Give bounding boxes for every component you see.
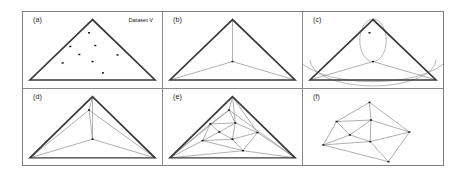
triangulation-edge-1: [370, 102, 371, 120]
vertex-0: [88, 32, 90, 33]
triangulation-edge-2: [89, 110, 155, 158]
vertex-5: [231, 138, 233, 139]
vertex-0: [368, 101, 370, 102]
vertex-3: [349, 134, 351, 135]
triangulation-edge-15: [233, 139, 243, 150]
panel-b-plot: [163, 12, 302, 88]
panel-a-plot: [23, 12, 162, 88]
panel-e: (e): [163, 89, 303, 166]
panel-f: (f): [303, 89, 443, 166]
vertex-4: [202, 139, 204, 140]
super-triangle: [170, 96, 295, 157]
triangulation-edge-5: [323, 121, 336, 144]
panel-grid: (a)Dataset V(b)(c)(d)(e)(f): [22, 11, 444, 166]
triangulation-edge-4: [210, 123, 219, 131]
triangulation-edge-11: [203, 139, 233, 140]
panel-f-plot: [303, 89, 443, 166]
vertex-0: [88, 109, 90, 110]
panel-e-plot: [163, 89, 302, 166]
panel-d-plot: [23, 89, 162, 166]
triangulation-edge-12: [203, 140, 243, 150]
triangulation-edge-3: [89, 110, 92, 139]
vertex-5: [369, 140, 371, 141]
super-triangle: [30, 20, 155, 80]
vertex-7: [102, 72, 104, 73]
vertex-5: [91, 61, 93, 62]
panel-d: (d): [23, 89, 163, 166]
triangulation-edge-7: [370, 120, 371, 142]
vertex-0: [368, 32, 370, 33]
panel-a: (a)Dataset V: [23, 12, 163, 89]
vertex-0: [231, 61, 233, 62]
triangulation-edge-14: [370, 141, 388, 161]
vertex-2: [234, 122, 236, 123]
vertex-1: [372, 61, 374, 62]
vertex-7: [387, 160, 389, 161]
triangulation-edge-9: [219, 132, 232, 139]
circumcircle-arc-2: [310, 60, 436, 86]
panel-b: (b): [163, 12, 303, 89]
triangulation-edge-4: [337, 121, 350, 134]
vertex-3: [218, 131, 220, 132]
vertex-2: [370, 119, 372, 120]
triangulation-edge-6: [350, 120, 371, 135]
triangulation-edge-0: [337, 102, 370, 121]
triangulation-edge-3: [337, 120, 371, 121]
figure-container: (a)Dataset V(b)(c)(d)(e)(f): [0, 0, 466, 177]
triangulation-edge-9: [350, 134, 370, 141]
triangulation-edge-19: [243, 150, 295, 157]
vertex-3: [78, 54, 80, 55]
vertex-1: [69, 46, 71, 47]
super-triangle: [310, 20, 436, 80]
triangulation-edge-14: [233, 132, 258, 139]
triangulation-edge-7: [233, 122, 236, 138]
vertex-1: [209, 123, 211, 124]
vertex-0: [228, 109, 230, 110]
vertex-1: [336, 120, 338, 121]
vertex-4: [62, 62, 64, 63]
triangulation-edge-2: [370, 102, 410, 132]
vertex-2: [94, 45, 96, 46]
vertex-4: [322, 144, 324, 145]
triangulation-edge-10: [203, 132, 220, 141]
vertex-1: [91, 138, 93, 139]
vertex-6: [408, 131, 410, 132]
triangulation-edge-21: [170, 110, 229, 158]
vertex-6: [116, 54, 118, 55]
triangulation-edge-22: [229, 110, 295, 158]
triangulation-edge-1: [30, 110, 89, 158]
vertex-7: [242, 149, 244, 150]
triangulation-edge-16: [243, 132, 258, 150]
triangulation-edge-3: [210, 122, 235, 123]
panel-c: (c): [303, 12, 443, 89]
vertex-6: [256, 131, 258, 132]
triangulation-edge-8: [371, 120, 410, 132]
panel-c-plot: [303, 12, 443, 88]
triangulation-edge-6: [219, 122, 235, 131]
triangulation-edge-12: [323, 144, 388, 161]
